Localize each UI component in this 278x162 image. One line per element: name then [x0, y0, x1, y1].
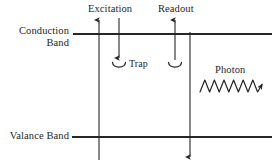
photon-wave-icon [200, 80, 262, 92]
valence-band-label: Valance Band [0, 130, 69, 142]
excitation-label: Excitation [88, 3, 132, 15]
conduction-band-label-line1: Conduction [0, 25, 69, 37]
trap-cup-readout-icon [169, 63, 182, 68]
band-diagram-figure: Conduction Band Valance Band Excitation … [0, 0, 278, 162]
trap-label: Trap [129, 58, 148, 69]
readout-label: Readout [158, 3, 194, 15]
trap-cup-excitation-icon [113, 63, 126, 68]
photon-label: Photon [215, 64, 245, 76]
conduction-band-label: Conduction Band [0, 25, 69, 49]
conduction-band-label-line2: Band [0, 37, 69, 49]
